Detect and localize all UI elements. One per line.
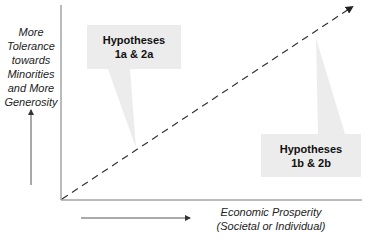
callout-subtitle: 1a & 2a — [87, 47, 181, 61]
y-axis-label-line: More — [0, 25, 62, 39]
x-axis-label: Economic Prosperity (Societal or Individ… — [196, 205, 346, 233]
x-axis-label-line: (Societal or Individual) — [196, 219, 346, 233]
y-axis-label-line: and More — [0, 81, 62, 95]
y-axis-label-line: Tolerance — [0, 39, 62, 53]
callout-subtitle: 1b & 2b — [261, 156, 361, 170]
y-axis-label-line: Minorities — [0, 67, 62, 81]
callout-title: Hypotheses — [261, 142, 361, 156]
callout-title: Hypotheses — [87, 33, 181, 47]
y-axis-label: More Tolerance towards Minorities and Mo… — [0, 25, 62, 109]
callout-hypotheses-1b-2b: Hypotheses 1b & 2b — [261, 142, 361, 170]
y-axis-label-line: towards — [0, 53, 62, 67]
callout-hypotheses-1a-2a: Hypotheses 1a & 2a — [87, 33, 181, 61]
y-axis-label-line: Generosity — [0, 95, 62, 109]
x-axis-label-line: Economic Prosperity — [196, 205, 346, 219]
